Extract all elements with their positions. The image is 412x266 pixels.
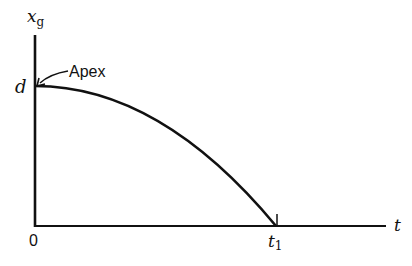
apex-arrow [40, 71, 68, 83]
trajectory-curve [35, 86, 276, 226]
x-axis-label: t [394, 215, 401, 235]
apex-label: Apex [69, 63, 105, 80]
diagram-canvas: xg d Apex 0 t1 t [0, 0, 412, 266]
origin-label: 0 [29, 232, 38, 249]
d-label: d [15, 76, 27, 97]
y-axis-label: xg [27, 6, 45, 29]
t1-label: t1 [268, 231, 282, 253]
